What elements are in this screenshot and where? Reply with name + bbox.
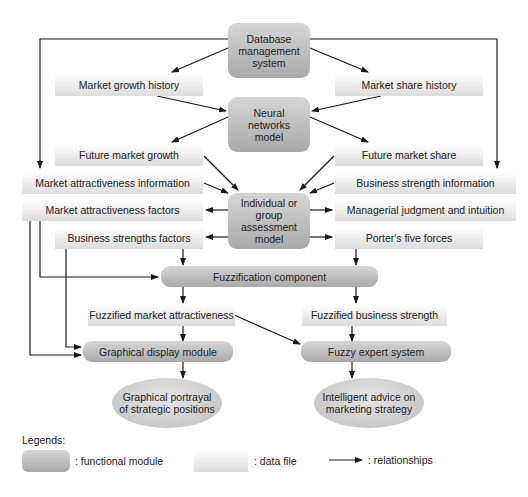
market-attractiveness-information: Market attractiveness information — [22, 172, 203, 194]
neural-networks-model: Neural networks model — [228, 97, 310, 152]
legend-data-file-swatch — [194, 450, 248, 472]
label-line: of strategic positions — [119, 403, 215, 415]
legend-relationships-label: : relationships — [368, 454, 433, 466]
managerial-judgment-and-intuition: Managerial judgment and intuition — [335, 199, 516, 221]
assessment-model: Individual or group assessment model — [228, 193, 310, 249]
legend-functional-module-label: : functional module — [75, 455, 163, 467]
porters-five-forces: Porter's five forces — [335, 227, 483, 249]
graphical-portrayal-output: Graphical portrayal of strategic positio… — [112, 378, 222, 428]
label-line: Intelligent advice on — [323, 391, 416, 403]
fuzzified-market-attractiveness: Fuzzified market attractiveness — [88, 304, 235, 326]
label-line: assessment — [241, 221, 297, 233]
legend-functional-module-swatch — [22, 450, 70, 472]
market-share-history: Market share history — [335, 74, 483, 96]
label-line: Neural — [254, 107, 285, 119]
market-attractiveness-factors: Market attractiveness factors — [22, 199, 203, 221]
business-strength-information: Business strength information — [335, 172, 516, 194]
label-line: Graphical portrayal — [123, 391, 212, 403]
label-line: group — [256, 209, 283, 221]
intelligent-advice-output: Intelligent advice on marketing strategy — [314, 378, 424, 428]
label-line: Individual or — [241, 197, 298, 209]
future-market-share: Future market share — [335, 144, 483, 166]
label-line: management — [238, 45, 299, 57]
database-management-system: Database management system — [228, 23, 310, 78]
graphical-display-module: Graphical display module — [83, 341, 233, 362]
label-line: marketing strategy — [326, 403, 412, 415]
fuzzy-expert-system: Fuzzy expert system — [301, 341, 451, 362]
label-line: Database — [247, 33, 292, 45]
business-strengths-factors: Business strengths factors — [55, 227, 203, 249]
fuzzified-business-strength: Fuzzified business strength — [302, 304, 447, 326]
future-market-growth: Future market growth — [55, 144, 203, 166]
label-line: system — [252, 57, 285, 69]
legend-title: Legends: — [22, 434, 65, 446]
fuzzification-component: Fuzzification component — [161, 266, 378, 287]
market-growth-history: Market growth history — [55, 74, 203, 96]
label-line: model — [255, 233, 284, 245]
label-line: networks — [248, 119, 290, 131]
label-line: model — [255, 131, 284, 143]
legend-data-file-label: : data file — [254, 455, 297, 467]
